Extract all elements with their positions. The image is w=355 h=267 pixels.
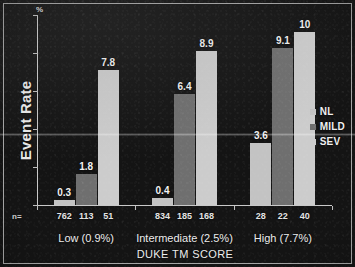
bar-value-label: 9.1 bbox=[276, 35, 290, 46]
legend-label: SEV bbox=[320, 136, 341, 147]
x-axis-line bbox=[37, 205, 332, 206]
bar-mild-2: 6.4 bbox=[174, 94, 195, 205]
legend-swatch-icon bbox=[310, 109, 316, 115]
x-axis-tick bbox=[135, 206, 136, 210]
n-value: 22 bbox=[278, 211, 288, 221]
legend-label: NL bbox=[320, 106, 334, 117]
n-value: 762 bbox=[57, 211, 72, 221]
slide-photo: Event Rate % 0.31.87.80.46.48.93.69.110 … bbox=[0, 0, 355, 267]
n-value: 51 bbox=[103, 211, 113, 221]
n-value: 40 bbox=[300, 211, 310, 221]
bar-value-label: 6.4 bbox=[178, 81, 192, 92]
legend-swatch-icon bbox=[310, 124, 316, 130]
legend-item-sev[interactable]: SEV bbox=[310, 134, 345, 149]
n-value: 185 bbox=[177, 211, 192, 221]
bar-chart: Event Rate % 0.31.87.80.46.48.93.69.110 … bbox=[0, 0, 355, 267]
bar-mild-3: 9.1 bbox=[272, 48, 293, 205]
x-axis-tick bbox=[332, 206, 333, 210]
group-label-1: Low (0.9%) bbox=[58, 232, 114, 244]
bar-nl-1: 0.3 bbox=[54, 200, 75, 205]
bar-nl-2: 0.4 bbox=[152, 198, 173, 205]
chart-legend: NLMILDSEV bbox=[310, 104, 345, 149]
bar-value-label: 3.6 bbox=[254, 130, 268, 141]
y-axis-unit-label: % bbox=[36, 5, 43, 14]
y-axis-line bbox=[37, 15, 38, 205]
bar-value-label: 7.8 bbox=[101, 57, 115, 68]
bar-value-label: 10 bbox=[299, 19, 310, 30]
n-row-label: n= bbox=[12, 212, 22, 221]
y-axis-tick bbox=[33, 129, 38, 130]
n-value: 28 bbox=[256, 211, 266, 221]
legend-item-nl[interactable]: NL bbox=[310, 104, 345, 119]
bar-value-label: 1.8 bbox=[79, 161, 93, 172]
y-axis-tick bbox=[33, 91, 38, 92]
n-value: 168 bbox=[199, 211, 214, 221]
bar-value-label: 8.9 bbox=[200, 38, 214, 49]
bar-value-label: 0.3 bbox=[57, 187, 71, 198]
y-axis-tick bbox=[33, 53, 38, 54]
y-axis-title: Event Rate bbox=[17, 66, 34, 176]
group-label-2: Intermediate (2.5%) bbox=[136, 232, 233, 244]
bar-sev-1: 7.8 bbox=[98, 70, 119, 205]
n-value: 113 bbox=[79, 211, 94, 221]
legend-item-mild[interactable]: MILD bbox=[310, 119, 345, 134]
bar-value-label: 0.4 bbox=[156, 185, 170, 196]
bar-nl-3: 3.6 bbox=[250, 143, 271, 205]
x-axis-tick bbox=[234, 206, 235, 210]
group-label-3: High (7.7%) bbox=[254, 232, 312, 244]
x-axis-tick bbox=[37, 206, 38, 210]
bar-mild-1: 1.8 bbox=[76, 174, 97, 205]
y-axis-tick bbox=[33, 15, 38, 16]
legend-label: MILD bbox=[320, 121, 345, 132]
n-value: 834 bbox=[155, 211, 170, 221]
x-axis-title: DUKE TM SCORE bbox=[137, 248, 234, 260]
y-axis-tick bbox=[33, 167, 38, 168]
bar-sev-2: 8.9 bbox=[196, 51, 217, 205]
legend-swatch-icon bbox=[310, 139, 316, 145]
